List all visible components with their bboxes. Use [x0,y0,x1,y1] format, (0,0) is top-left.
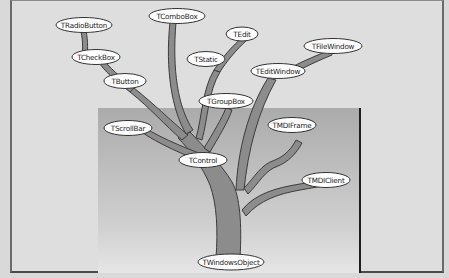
node-tradiobutton[interactable]: TRadioButton [56,18,112,33]
node-label: TButton [110,77,138,86]
node-label: TEdit [232,30,251,39]
node-tcontrol[interactable]: TControl [179,153,227,168]
node-label: TComboBox [156,12,199,21]
node-label: TFileWindow [311,42,355,51]
node-twindowsobject[interactable]: TWindowsObject [198,254,264,270]
node-label: TMDIFrame [272,121,313,130]
node-tstatic[interactable]: TStatic [187,52,225,67]
node-tcheckbox[interactable]: TCheckBox [72,50,120,65]
node-tcombobox[interactable]: TComboBox [149,9,205,24]
node-label: TCheckBox [76,53,116,62]
node-label: TMDIClient [306,176,344,185]
node-label: TScrollBar [110,124,146,133]
node-tedit[interactable]: TEdit [226,27,258,41]
node-label: TWindowsObject [201,258,259,267]
node-tbutton[interactable]: TButton [104,74,146,89]
node-label: TEditWindow [255,67,301,76]
node-tfilewindow[interactable]: TFileWindow [304,39,362,54]
branch-tcombobox [168,22,193,134]
node-label: TGroupBox [206,97,246,106]
node-label: TControl [188,156,218,165]
node-tmdiframe[interactable]: TMDIFrame [268,118,316,133]
node-label: TStatic [193,55,218,64]
node-label: TRadioButton [60,21,107,30]
branch-tgroupbox [204,108,232,152]
node-teditwindow[interactable]: TEditWindow [251,64,305,79]
node-tgroupbox[interactable]: TGroupBox [199,94,253,109]
node-tmdiclient[interactable]: TMDIClient [302,173,350,188]
node-tscrollbar[interactable]: TScrollBar [104,121,152,136]
class-hierarchy-tree: TWindowsObject TControl TMDIClient TMDIF… [0,0,449,278]
